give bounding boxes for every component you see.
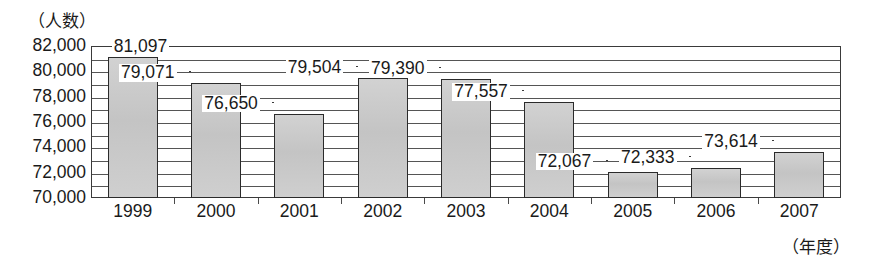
y-axis-tick-label: 74,000	[32, 138, 86, 156]
y-axis-tick-label: 76,000	[32, 113, 86, 131]
bar	[274, 114, 324, 198]
bar-value-label: 79,071	[119, 64, 177, 82]
bar	[774, 152, 824, 198]
bar-value-label: 76,650	[202, 95, 260, 113]
bar-value-label: 79,504	[286, 59, 344, 77]
x-axis-tick-label: 2006	[674, 203, 757, 221]
gridline	[92, 72, 840, 73]
y-axis-tick-label: 80,000	[32, 62, 86, 80]
bar	[358, 78, 408, 198]
bar	[608, 172, 658, 198]
y-axis-tick-label: 82,000	[32, 37, 86, 55]
value-label-leader-line	[356, 66, 358, 67]
y-axis-tick-label: 72,000	[32, 164, 86, 182]
value-label-leader-line	[522, 90, 524, 91]
bar-value-label: 72,333	[619, 149, 677, 167]
bar-value-label: 72,067	[536, 153, 594, 171]
bar-chart: （人数） 82,00080,00078,00076,00074,00072,00…	[0, 0, 882, 265]
bar-fill	[775, 153, 823, 197]
bar-fill	[275, 115, 323, 197]
x-axis-tick-label: 2005	[591, 203, 674, 221]
x-axis-tick-label: 1999	[91, 203, 174, 221]
x-axis-tick-label: 2000	[174, 203, 257, 221]
x-axis-unit-label: （年度）	[782, 233, 850, 258]
x-axis-tick-label: 2004	[508, 203, 591, 221]
bar-value-label: 79,390	[369, 60, 427, 78]
value-label-leader-line	[189, 71, 191, 72]
y-axis-tick-labels: 82,00080,00078,00076,00074,00072,00070,0…	[0, 0, 86, 265]
bar-value-label: 81,097	[112, 38, 170, 56]
bar-value-label: 73,614	[702, 133, 760, 151]
gridline	[92, 60, 840, 61]
bar	[691, 168, 741, 198]
x-axis-tick-label: 2003	[424, 203, 507, 221]
y-axis-tick-label: 78,000	[32, 88, 86, 106]
x-axis-tick-label: 2002	[341, 203, 424, 221]
bar-fill	[359, 79, 407, 197]
bar-fill	[692, 169, 740, 197]
value-label-leader-line	[689, 156, 691, 157]
value-label-leader-line	[606, 160, 608, 161]
bar-value-label: 77,557	[452, 83, 510, 101]
x-axis-tick-label: 2007	[758, 203, 841, 221]
x-axis-tick-label: 2001	[258, 203, 341, 221]
bar-fill	[609, 173, 657, 197]
value-label-leader-line	[772, 140, 774, 141]
value-label-leader-line	[272, 102, 274, 103]
value-label-leader-line	[439, 67, 441, 68]
y-axis-tick-label: 70,000	[32, 189, 86, 207]
